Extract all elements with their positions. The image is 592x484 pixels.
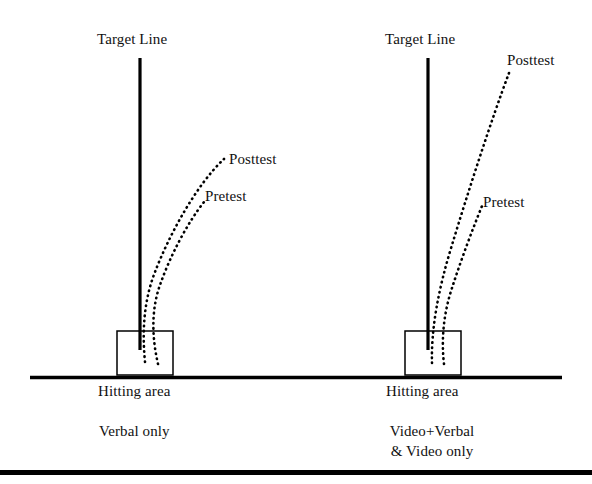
figure-container: Target Line Posttest Pretest Hitting are… xyxy=(0,0,592,484)
left-target-line-label: Target Line xyxy=(97,31,167,48)
right-target-line-label: Target Line xyxy=(385,31,455,48)
right-condition-line-2: & Video only xyxy=(372,441,492,461)
left-panel-graphics xyxy=(117,58,224,375)
right-posttest-curve xyxy=(432,73,509,363)
left-pretest-label: Pretest xyxy=(205,188,247,205)
right-pretest-label: Pretest xyxy=(483,194,525,211)
right-panel-graphics xyxy=(405,58,509,375)
left-condition-label: Verbal only xyxy=(99,423,170,440)
figure-drawing xyxy=(0,0,592,484)
left-posttest-label: Posttest xyxy=(229,151,276,168)
right-condition-label: Video+Verbal & Video only xyxy=(372,421,492,461)
left-hitting-area-label: Hitting area xyxy=(98,383,170,400)
right-pretest-curve xyxy=(443,206,482,364)
left-hitting-area-box xyxy=(117,331,173,375)
right-condition-line-1: Video+Verbal xyxy=(372,421,492,441)
right-hitting-area-label: Hitting area xyxy=(386,383,458,400)
right-posttest-label: Posttest xyxy=(507,52,554,69)
left-pretest-curve xyxy=(153,202,204,364)
